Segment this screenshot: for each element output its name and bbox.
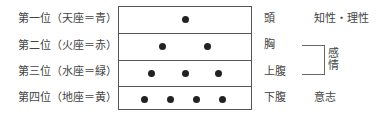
levels-box <box>118 6 252 110</box>
row-label-3: 第三位（水座＝緑） <box>18 65 117 78</box>
dot-icon <box>219 96 226 103</box>
dot-icon <box>182 70 189 77</box>
level-row-2 <box>119 33 251 60</box>
dot-icon <box>159 43 166 50</box>
body-part-lower-abdomen: 下腹 <box>264 91 286 104</box>
body-part-upper-abdomen: 上腹 <box>264 65 286 78</box>
faculty-intellect: 知性・理性 <box>314 12 369 25</box>
emotion-bracket <box>302 45 325 75</box>
dot-icon <box>182 16 189 23</box>
level-row-3 <box>119 60 251 86</box>
body-part-chest: 胸 <box>264 38 275 51</box>
row-label-4: 第四位（地座＝黄） <box>18 91 117 104</box>
faculty-emotion: 感情 <box>328 48 340 72</box>
dot-icon <box>204 43 211 50</box>
dot-icon <box>215 70 222 77</box>
body-part-head: 頭 <box>264 12 275 25</box>
dot-icon <box>167 96 174 103</box>
row-label-1: 第一位（天座＝青） <box>18 12 117 25</box>
level-row-4 <box>119 86 251 111</box>
level-row-1 <box>119 7 251 33</box>
faculty-will: 意志 <box>314 91 336 104</box>
row-label-2: 第二位（火座＝赤） <box>18 39 117 52</box>
dot-icon <box>141 96 148 103</box>
dot-icon <box>193 96 200 103</box>
dot-icon <box>148 70 155 77</box>
